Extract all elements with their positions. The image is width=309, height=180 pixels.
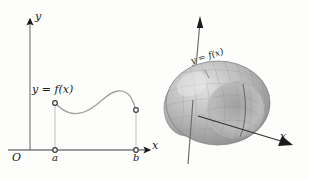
tick-label-a: a [52,153,58,163]
solid-of-revolution-figure: y x O a b y = f(x) y = f(x) x [0,0,309,180]
point-a-on-curve [53,101,58,106]
curve-label-2d: y = f(x) [32,84,73,95]
x-axis-label-3d: x [280,131,286,142]
y-axis-label: y [35,11,41,22]
axis-of-revolution-arrowhead [197,16,203,28]
graph-axes [8,19,150,150]
graph-guide-lines [55,104,136,150]
tick-label-b: b [133,153,139,163]
point-b-on-curve [134,108,139,113]
graph-endpoints [53,101,139,153]
x-axis-label: x [152,140,158,151]
origin-label: O [12,152,21,163]
